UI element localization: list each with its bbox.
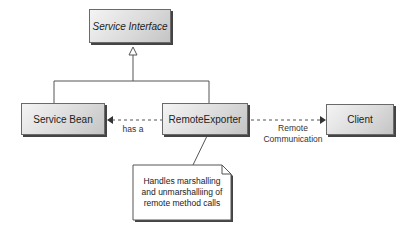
remote-exporter-node: RemoteExporter xyxy=(162,103,248,135)
node-label: RemoteExporter xyxy=(169,114,242,125)
service-bean-node: Service Bean xyxy=(21,103,105,135)
note-line: and unmarshalliing of xyxy=(133,187,231,198)
note-line: Handles marshalling xyxy=(133,176,231,187)
node-label: Service Bean xyxy=(33,114,92,125)
note-text: Handles marshalling and unmarshalliing o… xyxy=(133,176,231,209)
client-node: Client xyxy=(326,104,394,135)
label-line: Communication xyxy=(258,134,328,145)
inheritance-arrow-icon xyxy=(129,47,137,55)
remote-communication-label: Remote Communication xyxy=(258,123,328,145)
has-a-label: has a xyxy=(118,124,148,135)
node-label: Service Interface xyxy=(92,21,167,32)
note-line: remote method calls xyxy=(133,198,231,209)
label-line: Remote xyxy=(258,123,328,134)
service-interface-node: Service Interface xyxy=(89,9,171,43)
node-label: Client xyxy=(347,114,373,125)
arrowhead-icon xyxy=(107,116,113,124)
